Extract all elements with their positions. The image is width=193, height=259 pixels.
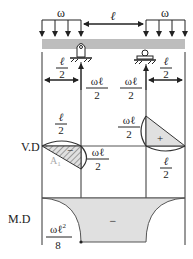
shear-negative-sign: − <box>67 144 73 156</box>
svg-text:ℓ: ℓ <box>60 55 65 67</box>
shear-negative-region <box>42 146 81 169</box>
shear-left-value-arc <box>81 146 87 169</box>
left-overhang-label: ℓ 2 <box>56 55 68 80</box>
svg-text:2: 2 <box>94 89 100 101</box>
svg-text:2: 2 <box>163 68 169 80</box>
shear-left-top-label: ℓ 2 <box>55 111 67 136</box>
svg-text:ℓ: ℓ <box>59 111 64 123</box>
right-overhang-label: ℓ 2 <box>160 55 172 80</box>
moment-value-label: ωℓ2 8 <box>46 222 72 251</box>
svg-text:2: 2 <box>126 128 132 140</box>
roller-support <box>134 50 156 64</box>
shear-positive-region <box>146 116 185 146</box>
svg-text:2: 2 <box>58 124 64 136</box>
moment-point <box>79 240 82 243</box>
span-label: ℓ <box>111 9 116 23</box>
left-load-label: ω <box>57 6 65 20</box>
svg-text:ωℓ: ωℓ <box>125 75 138 87</box>
svg-text:ℓ: ℓ <box>164 55 169 67</box>
svg-text:2: 2 <box>95 160 101 172</box>
svg-text:ωℓ: ωℓ <box>91 75 104 87</box>
svg-text:8: 8 <box>55 239 61 251</box>
moment-sign: − <box>110 214 117 228</box>
beam <box>42 39 185 49</box>
right-load-label: ω <box>161 6 169 20</box>
svg-text:ωℓ: ωℓ <box>92 146 105 158</box>
svg-text:ωℓ: ωℓ <box>123 114 136 126</box>
shear-right-bottom-label: ℓ 2 <box>160 155 172 180</box>
shear-left-arc <box>42 141 81 146</box>
area-label: A1 <box>50 155 61 168</box>
right-reaction-label: ωℓ 2 <box>120 75 142 101</box>
svg-text:2: 2 <box>128 89 134 101</box>
shear-positive-sign: + <box>157 132 163 144</box>
shear-right-bottom-arc <box>146 146 185 151</box>
left-distributed-load <box>42 20 81 36</box>
moment-diagram-label: M.D <box>8 212 31 226</box>
svg-text:ℓ: ℓ <box>164 155 169 167</box>
svg-text:2: 2 <box>59 68 65 80</box>
shear-diagram-label: V.D <box>21 140 40 154</box>
right-distributed-load <box>146 20 185 36</box>
left-reaction-label: ωℓ 2 <box>86 75 108 101</box>
svg-text:ωℓ2: ωℓ2 <box>50 222 67 235</box>
shear-left-value-label: ωℓ 2 <box>87 146 109 172</box>
beam-diagram: ω ω ℓ ℓ 2 <box>0 0 193 259</box>
shear-right-value-label: ωℓ 2 <box>118 114 140 140</box>
svg-text:2: 2 <box>163 168 169 180</box>
shear-right-value-arc <box>141 116 146 146</box>
